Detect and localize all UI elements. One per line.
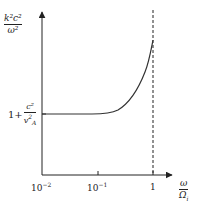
dispersion-curve [42,40,153,114]
y-axis-label: k²c² ω² [4,14,22,35]
x-axis-label: ω Ωi [179,179,188,202]
x-tick-1: 10−1 [87,182,107,193]
x-tick-2: 1 [150,183,156,192]
x-tick-0: 10−2 [31,182,51,193]
y-tick-label: 1+ c² v2A [8,103,36,126]
